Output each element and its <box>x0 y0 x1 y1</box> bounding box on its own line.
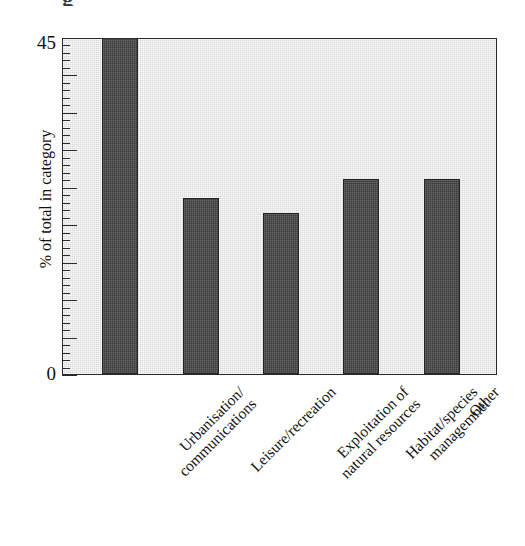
x-axis-category-label-line: Leisure/recreation <box>247 383 339 475</box>
y-axis-minor-tick <box>62 278 70 279</box>
y-axis-major-tick <box>62 113 77 114</box>
y-axis-minor-tick <box>62 143 70 144</box>
y-axis-minor-tick <box>62 120 70 121</box>
y-axis-minor-tick <box>62 248 70 249</box>
y-axis-minor-tick <box>62 68 70 69</box>
y-axis-minor-tick <box>62 45 70 46</box>
y-axis-minor-tick <box>62 90 70 91</box>
y-axis-major-tick <box>62 338 77 339</box>
y-axis-minor-tick <box>62 353 70 354</box>
y-axis-minor-tick <box>62 203 70 204</box>
y-axis-major-tick <box>62 225 77 226</box>
bar-other <box>424 179 460 374</box>
x-axis-category-label: Urbanisation/communications <box>163 383 259 479</box>
y-axis-minor-tick <box>62 135 70 136</box>
y-axis-minor-tick <box>62 128 70 129</box>
y-axis-minor-tick <box>62 285 70 286</box>
y-axis-minor-tick <box>62 180 70 181</box>
y-axis-minor-tick <box>62 210 70 211</box>
y-axis-ticks <box>62 38 86 375</box>
y-axis-minor-tick <box>62 218 70 219</box>
y-axis-minor-tick <box>62 165 70 166</box>
y-axis-minor-tick <box>62 315 70 316</box>
y-axis-minor-tick <box>62 330 70 331</box>
y-axis-minor-tick <box>62 255 70 256</box>
y-axis-minor-tick <box>62 53 70 54</box>
bar-chart-figure: g 45 0 % of total in category Urbanisati… <box>0 0 525 546</box>
y-axis-major-tick <box>62 150 77 151</box>
plot-area <box>62 38 497 375</box>
cut-off-chart-title: g <box>62 0 362 6</box>
y-axis-minor-tick <box>62 98 70 99</box>
y-axis-label-max: 45 <box>4 33 56 52</box>
y-axis-major-tick <box>62 75 77 76</box>
bar-exploitation-natural-resources <box>263 213 299 374</box>
y-axis-minor-tick <box>62 368 70 369</box>
y-axis-major-tick <box>62 38 77 39</box>
y-axis-label-min: 0 <box>4 364 56 383</box>
y-axis-minor-tick <box>62 233 70 234</box>
bar-leisure-recreation <box>183 198 219 374</box>
y-axis-minor-tick <box>62 360 70 361</box>
x-axis-category-label: Leisure/recreation <box>247 383 339 475</box>
y-axis-minor-tick <box>62 345 70 346</box>
y-axis-major-tick <box>62 300 77 301</box>
y-axis-minor-tick <box>62 173 70 174</box>
x-axis-category-label: Exploitation ofnatural resources <box>324 383 423 482</box>
y-axis-major-tick <box>62 263 77 264</box>
y-axis-major-tick <box>62 188 77 189</box>
y-axis-minor-tick <box>62 105 70 106</box>
y-axis-minor-tick <box>62 270 70 271</box>
y-axis-minor-tick <box>62 83 70 84</box>
y-axis-minor-tick <box>62 293 70 294</box>
y-axis-minor-tick <box>62 60 70 61</box>
y-axis-major-tick <box>62 375 77 376</box>
y-axis-minor-tick <box>62 158 70 159</box>
y-axis-minor-tick <box>62 308 70 309</box>
y-axis-minor-tick <box>62 240 70 241</box>
y-axis-title: % of total in category <box>37 109 55 289</box>
y-axis-minor-tick <box>62 323 70 324</box>
y-axis-minor-tick <box>62 195 70 196</box>
bar-urbanisation-communications <box>102 38 138 374</box>
bar-habitat-species-management <box>343 179 379 374</box>
